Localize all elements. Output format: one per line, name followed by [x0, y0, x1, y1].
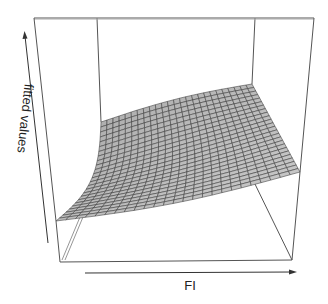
z-axis-label: fitted values [14, 83, 36, 154]
x-axis-arrowhead-icon [289, 270, 297, 275]
x-axis-label: FI [184, 278, 196, 293]
z-axis: fitted values [14, 31, 48, 243]
surface-plot: fitted values FI [0, 0, 328, 304]
z-axis-arrowhead-icon [23, 31, 28, 39]
x-axis: FI [85, 270, 297, 294]
